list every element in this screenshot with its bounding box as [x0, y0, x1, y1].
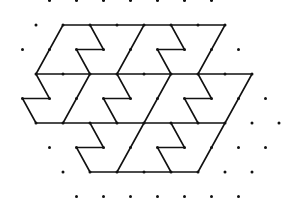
lattice-dot — [35, 24, 38, 27]
lattice-dot — [75, 195, 78, 198]
lattice-dot — [210, 146, 213, 149]
tile-edge — [158, 25, 185, 74]
lattice-dot — [62, 24, 65, 27]
lattice-dot — [197, 122, 200, 125]
lattice-dot — [21, 48, 24, 51]
lattice-dot — [102, 97, 105, 100]
lattice-dot — [89, 122, 92, 125]
lattice-dot — [251, 73, 254, 76]
lattice-dot — [129, 195, 132, 198]
lattice-dot — [129, 48, 132, 51]
lattice-dot — [264, 97, 267, 100]
lattice-dot — [143, 73, 146, 76]
lattice-dot — [129, 146, 132, 149]
lattice-dot — [210, 0, 213, 2]
lattice-dot — [143, 24, 146, 27]
lattice-dot — [156, 97, 159, 100]
lattice-dot — [183, 146, 186, 149]
lattice-dot — [170, 73, 173, 76]
lattice-dot — [251, 171, 254, 174]
lattice-dot — [224, 122, 227, 125]
lattice-dot — [143, 122, 146, 125]
lattice-dot — [237, 97, 240, 100]
lattice-dot — [237, 195, 240, 198]
lattice-dot — [224, 24, 227, 27]
lattice-dot — [48, 0, 51, 2]
tile-edge — [104, 74, 131, 123]
tile-edge — [77, 123, 104, 172]
lattice-dot — [210, 97, 213, 100]
lattice-dot — [170, 171, 173, 174]
lattice-dot — [197, 171, 200, 174]
lattice-dot — [89, 73, 92, 76]
lattice-dot — [102, 146, 105, 149]
tessellation-diagram — [0, 0, 288, 205]
lattice-dot — [62, 73, 65, 76]
lattice-dot — [210, 195, 213, 198]
lattice-dot — [35, 73, 38, 76]
lattice-dot — [129, 0, 132, 2]
tile-edge — [185, 74, 212, 123]
lattice-dot — [75, 48, 78, 51]
lattice-dot — [116, 171, 119, 174]
lattice-dot — [35, 122, 38, 125]
lattice-dot — [197, 73, 200, 76]
tile-edge — [158, 123, 185, 172]
lattice-dot — [75, 146, 78, 149]
tile-edge — [23, 74, 50, 123]
lattice-dot — [251, 122, 254, 125]
lattice-dot — [129, 97, 132, 100]
lattice-dot — [237, 146, 240, 149]
tile-outline-group — [23, 25, 253, 172]
lattice-dot — [170, 122, 173, 125]
lattice-dot — [183, 195, 186, 198]
lattice-dot — [116, 24, 119, 27]
lattice-dot — [156, 0, 159, 2]
lattice-dot — [116, 73, 119, 76]
lattice-dot — [75, 0, 78, 2]
lattice-dot — [62, 171, 65, 174]
lattice-dot — [116, 122, 119, 125]
lattice-dot — [62, 122, 65, 125]
lattice-dot — [156, 195, 159, 198]
lattice-dot — [264, 146, 267, 149]
lattice-dot — [183, 0, 186, 2]
tile-edge — [77, 25, 104, 74]
lattice-dot — [183, 97, 186, 100]
lattice-dot — [224, 171, 227, 174]
lattice-dot — [48, 48, 51, 51]
lattice-dot — [21, 97, 24, 100]
lattice-dot — [102, 195, 105, 198]
lattice-dot — [170, 24, 173, 27]
lattice-dot — [197, 24, 200, 27]
lattice-dot — [183, 48, 186, 51]
lattice-dot — [48, 146, 51, 149]
lattice-dot — [156, 48, 159, 51]
lattice-dot — [237, 48, 240, 51]
lattice-dot — [143, 171, 146, 174]
lattice-dot — [224, 73, 227, 76]
lattice-dot — [210, 48, 213, 51]
lattice-dot — [278, 122, 281, 125]
lattice-dot — [89, 24, 92, 27]
lattice-dot — [75, 97, 78, 100]
lattice-dot — [102, 0, 105, 2]
lattice-dot — [48, 97, 51, 100]
lattice-dot — [102, 48, 105, 51]
lattice-dot — [156, 146, 159, 149]
lattice-dot — [89, 171, 92, 174]
